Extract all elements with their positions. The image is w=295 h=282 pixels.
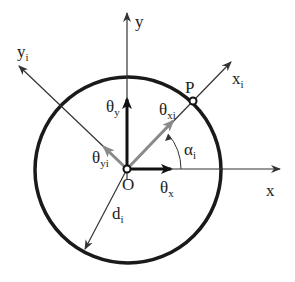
theta-xi-vector	[127, 121, 173, 169]
di-radius-arrow	[85, 169, 127, 249]
x-axis-label: x	[266, 181, 275, 200]
d-i-label: di	[112, 204, 124, 225]
point-P-label: P	[185, 78, 194, 97]
theta-x-label: θx	[160, 178, 174, 199]
theta-y-label: θy	[106, 97, 120, 118]
xi-axis-label: xi	[232, 69, 244, 90]
origin-marker	[124, 166, 131, 173]
alpha-i-label: αi	[184, 140, 196, 161]
theta-xi-label: θxi	[159, 100, 176, 121]
yi-axis-label: yi	[17, 42, 29, 63]
diagram-canvas: y x xi yi P O θy θx θxi θyi αi di	[0, 0, 295, 282]
y-axis-label: y	[135, 12, 144, 31]
point-P-marker	[190, 98, 197, 105]
origin-label: O	[122, 175, 134, 194]
circle-frame-diagram: y x xi yi P O θy θx θxi θyi αi di	[0, 0, 295, 282]
